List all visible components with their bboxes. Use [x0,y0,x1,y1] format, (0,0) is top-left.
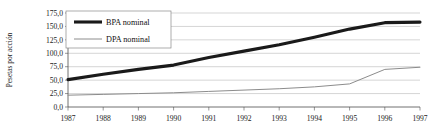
x-tick-label: 1987 [60,114,75,123]
x-tick-label: 1988 [96,114,111,123]
y-tick-label: 100,0 [46,49,63,58]
line-chart: 0,025,050,075,0100,0125,0150,0175,0 1987… [0,0,441,131]
x-tick-label: 1991 [201,114,216,123]
y-tick-label: 50,0 [50,76,63,85]
legend-label: BPA nominal [106,18,150,27]
y-tick-label: 75,0 [50,62,63,71]
chart-container: 0,025,050,075,0100,0125,0150,0175,0 1987… [0,0,441,131]
x-tick-label: 1995 [342,114,357,123]
x-tick-label: 1993 [272,114,287,123]
y-tick-label: 25,0 [50,89,63,98]
x-tick-label: 1996 [377,114,392,123]
y-tick-label: 150,0 [46,22,63,31]
x-tick-label: 1994 [307,114,322,123]
legend-label: DPA nominal [106,35,151,44]
x-tick-label: 1990 [166,114,181,123]
x-tick-label: 1992 [236,114,251,123]
y-tick-label: 125,0 [46,36,63,45]
x-tick-label: 1989 [131,114,146,123]
x-tick-label: 1997 [412,114,427,123]
y-axis-title: Pesetas por acción [5,32,14,87]
legend: BPA nominalDPA nominal [66,11,171,48]
y-tick-label: 0,0 [54,103,64,112]
y-tick-label: 175,0 [46,9,63,18]
